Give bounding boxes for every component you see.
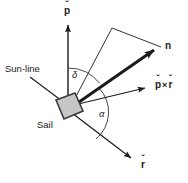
p-hat-accent: ˇ bbox=[66, 0, 69, 9]
r-hat-accent: ˇ bbox=[141, 154, 144, 163]
sail-geometry-diagram: ˇ p n ˇ p × ˇ r ˇ r δ α Sun-line Sail bbox=[0, 0, 188, 183]
p-hat-accent-cross: ˇ bbox=[157, 74, 160, 83]
n-vector-arrow bbox=[69, 50, 154, 109]
r-hat-vector-label: ˇ r bbox=[141, 160, 145, 170]
sail-normal-wedge bbox=[72, 28, 161, 104]
sun-line-label: Sun-line bbox=[5, 64, 40, 74]
delta-angle-label: δ bbox=[72, 70, 77, 80]
diagram-canvas bbox=[0, 0, 188, 183]
r-hat-accent-cross: ˇ bbox=[169, 74, 172, 83]
r-hat-vector-arrow bbox=[72, 113, 131, 158]
alpha-angle-label: α bbox=[99, 109, 104, 119]
cross-product-symbol: × bbox=[161, 80, 168, 90]
sail-label: Sail bbox=[37, 120, 53, 130]
n-vector-label: n bbox=[165, 41, 171, 51]
p-hat-vector-label: ˇ p bbox=[64, 6, 70, 16]
sail-body bbox=[56, 93, 83, 119]
sun-line-leader bbox=[30, 77, 62, 101]
p-cross-r-vector-label: ˇ p × ˇ r bbox=[155, 80, 172, 90]
